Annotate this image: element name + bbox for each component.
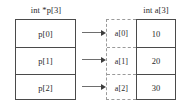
- array-value-cell-2: 30: [137, 74, 175, 101]
- array-index-cell-2: a[2]: [107, 74, 136, 101]
- arrow-shaft: [82, 86, 101, 87]
- arrow-p0-to-a0: [82, 29, 106, 36]
- pointer-cell-2: p[2]: [16, 74, 75, 101]
- array-index-cell-1: a[1]: [107, 47, 136, 74]
- array-value-column: 10 20 30: [136, 19, 176, 100]
- array-value-cell-1: 20: [137, 47, 175, 74]
- arrow-p1-to-a1: [82, 56, 106, 63]
- arrow-p2-to-a2: [82, 83, 106, 90]
- int-array-caption: int a[3]: [136, 5, 176, 15]
- pointer-array-box: p[0] p[1] p[2]: [15, 19, 76, 100]
- pointer-cell-0: p[0]: [16, 20, 75, 47]
- arrow-shaft: [82, 32, 101, 33]
- array-index-cell-0: a[0]: [107, 20, 136, 47]
- pointer-array-diagram: int *p[3] int a[3] p[0] p[1] p[2] a[0] a…: [0, 0, 192, 111]
- pointer-array-caption: int *p[3]: [16, 5, 76, 15]
- pointer-cell-1: p[1]: [16, 47, 75, 74]
- arrow-shaft: [82, 59, 101, 60]
- array-value-cell-0: 10: [137, 20, 175, 47]
- array-index-column: a[0] a[1] a[2]: [106, 19, 136, 100]
